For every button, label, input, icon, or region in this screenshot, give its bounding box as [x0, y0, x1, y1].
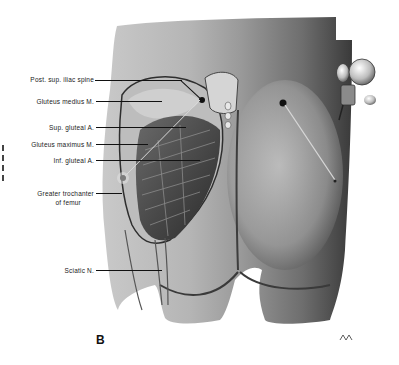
leader-sup-gluteal-a	[96, 127, 186, 128]
sacrum	[205, 72, 238, 113]
label-greater-trochanter: Greater trochanter	[37, 190, 94, 197]
right-buttock	[227, 80, 343, 270]
label-sup-gluteal-a: Sup. gluteal A.	[49, 124, 94, 131]
panel-letter: B	[96, 333, 105, 347]
label-gluteus-medius: Gluteus medius M.	[36, 98, 94, 105]
leader-gluteus-medius	[96, 101, 162, 102]
label-sciatic-n: Sciatic N.	[65, 267, 94, 274]
label-of-femur: of femur	[56, 199, 81, 206]
leader-inf-gluteal-a	[96, 160, 200, 161]
label-post-sup-iliac-spine: Post. sup. iliac spine	[30, 76, 94, 83]
gluteal-region-drawing	[0, 0, 399, 365]
label-gluteus-maximus: Gluteus maximus M.	[31, 141, 94, 148]
artist-signature	[340, 335, 352, 340]
leader-sciatic-n	[96, 270, 162, 271]
margin-marks	[2, 145, 5, 185]
anatomical-illustration: Post. sup. iliac spine Gluteus medius M.…	[0, 0, 399, 365]
leader-post-sup-iliac-spine	[95, 80, 182, 81]
leader-greater-trochanter	[96, 193, 122, 194]
label-inf-gluteal-a: Inf. gluteal A.	[53, 157, 94, 164]
leader-gluteus-maximus	[96, 144, 148, 145]
